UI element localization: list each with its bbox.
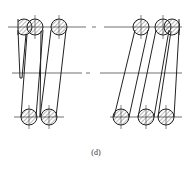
spring-drawing bbox=[0, 0, 192, 169]
figure-caption: (d) bbox=[0, 148, 192, 157]
coil-lines bbox=[18, 30, 179, 117]
